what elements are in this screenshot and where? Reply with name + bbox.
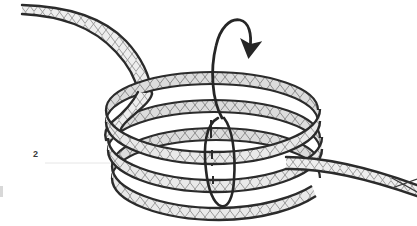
proximal-tail (22, 5, 152, 94)
coil-illustration-canvas (0, 0, 417, 226)
edge-tick-mark (0, 186, 3, 197)
figure-number-label: 2 (33, 150, 38, 159)
figure-illustration: 2 (0, 0, 417, 226)
